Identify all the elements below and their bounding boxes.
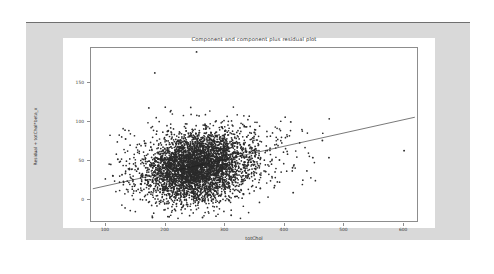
scatter-point <box>234 158 236 160</box>
scatter-point <box>235 174 237 176</box>
scatter-point <box>232 193 234 195</box>
scatter-point <box>161 179 163 181</box>
scatter-point <box>227 124 229 126</box>
scatter-point <box>226 183 228 185</box>
scatter-point <box>169 174 171 176</box>
scatter-point <box>223 211 225 213</box>
scatter-point <box>224 133 226 135</box>
scatter-point <box>218 171 220 173</box>
scatter-point <box>167 150 169 152</box>
scatter-point <box>175 156 177 158</box>
scatter-point <box>156 140 158 142</box>
scatter-point <box>202 147 204 149</box>
scatter-point <box>129 158 131 160</box>
scatter-point <box>226 115 228 117</box>
scatter-point <box>217 190 219 192</box>
scatter-point <box>198 147 200 149</box>
scatter-point <box>219 201 221 203</box>
scatter-point <box>145 158 147 160</box>
scatter-point <box>125 170 127 172</box>
scatter-point <box>171 169 173 171</box>
scatter-point <box>162 146 164 148</box>
scatter-point <box>175 203 177 205</box>
scatter-point <box>191 139 193 141</box>
scatter-point <box>216 179 218 181</box>
scatter-point <box>198 170 200 172</box>
scatter-point <box>280 120 282 122</box>
scatter-point <box>231 170 233 172</box>
scatter-point <box>253 161 255 163</box>
scatter-point <box>225 143 227 145</box>
scatter-point <box>157 195 159 197</box>
scatter-point <box>142 199 144 201</box>
scatter-point <box>215 187 217 189</box>
scatter-point <box>195 169 197 171</box>
scatter-point <box>176 135 178 137</box>
scatter-point <box>170 187 172 189</box>
scatter-point <box>202 195 204 197</box>
scatter-points-group <box>105 51 406 219</box>
scatter-point <box>213 135 215 137</box>
scatter-point <box>214 155 216 157</box>
scatter-point <box>166 140 168 142</box>
scatter-point <box>169 190 171 192</box>
scatter-point <box>193 138 195 140</box>
scatter-point <box>187 150 189 152</box>
scatter-point <box>256 172 258 174</box>
scatter-point <box>148 107 150 109</box>
scatter-point <box>217 200 219 202</box>
scatter-point <box>179 190 181 192</box>
scatter-point <box>131 168 133 170</box>
scatter-point <box>166 183 168 185</box>
scatter-point <box>190 107 192 109</box>
scatter-point <box>176 165 178 167</box>
scatter-point <box>201 188 203 190</box>
scatter-point <box>307 132 309 134</box>
scatter-point <box>172 200 174 202</box>
scatter-point <box>159 203 161 205</box>
scatter-point <box>200 145 202 147</box>
scatter-point <box>205 180 207 182</box>
scatter-point <box>231 183 233 185</box>
scatter-point <box>271 177 273 179</box>
scatter-point <box>151 170 153 172</box>
scatter-point <box>215 199 217 201</box>
scatter-point <box>186 144 188 146</box>
scatter-point <box>239 184 241 186</box>
scatter-point <box>235 189 237 191</box>
scatter-point <box>253 137 255 139</box>
scatter-point <box>133 153 135 155</box>
scatter-point <box>192 134 194 136</box>
scatter-point <box>161 152 163 154</box>
scatter-point <box>243 144 245 146</box>
scatter-point <box>177 176 179 178</box>
scatter-point <box>174 208 176 210</box>
scatter-point <box>168 170 170 172</box>
scatter-point <box>196 155 198 157</box>
scatter-point <box>260 188 262 190</box>
scatter-point <box>269 147 271 149</box>
scatter-point <box>279 159 281 161</box>
scatter-point <box>187 186 189 188</box>
scatter-point <box>127 189 129 191</box>
scatter-point <box>194 179 196 181</box>
scatter-point <box>171 156 173 158</box>
scatter-point <box>214 153 216 155</box>
scatter-point <box>177 142 179 144</box>
scatter-point <box>245 126 247 128</box>
scatter-point <box>228 183 230 185</box>
scatter-point <box>248 115 250 117</box>
scatter-point <box>125 165 127 167</box>
scatter-point <box>241 184 243 186</box>
scatter-point <box>242 150 244 152</box>
scatter-point <box>152 196 154 198</box>
scatter-point <box>190 182 192 184</box>
scatter-point <box>166 195 168 197</box>
scatter-point <box>152 178 154 180</box>
scatter-point <box>172 144 174 146</box>
scatter-point <box>176 185 178 187</box>
scatter-point <box>205 114 207 116</box>
scatter-point <box>243 175 245 177</box>
scatter-point <box>202 141 204 143</box>
scatter-point <box>290 130 292 132</box>
